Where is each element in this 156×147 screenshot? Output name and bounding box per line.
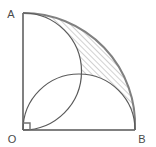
geometry-figure: A O B — [0, 0, 156, 147]
vertex-label-O: O — [8, 133, 17, 145]
vertex-label-A: A — [7, 8, 15, 20]
vertex-label-B: B — [138, 133, 145, 145]
geometry-diagram: A O B — [0, 0, 156, 147]
